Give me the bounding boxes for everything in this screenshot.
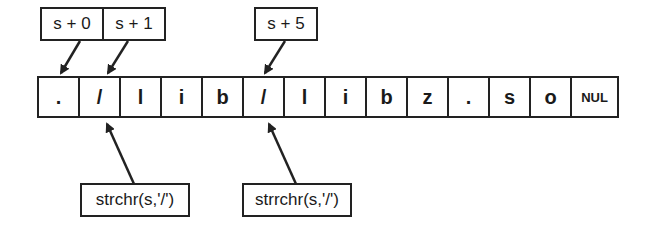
- cell-12: o: [529, 76, 572, 118]
- label-strchr: strchr(s,'/'): [80, 183, 190, 217]
- arrow-s5: [265, 41, 285, 73]
- label-s-plus-1: s + 1: [102, 7, 166, 41]
- cell-0: .: [37, 76, 80, 118]
- cell-10: .: [447, 76, 490, 118]
- cell-11: s: [488, 76, 531, 118]
- arrow-strchr: [107, 124, 134, 184]
- arrow-s0: [61, 41, 80, 73]
- cell-3: i: [160, 76, 203, 118]
- cell-9: z: [406, 76, 449, 118]
- label-s-plus-0: s + 0: [40, 7, 104, 41]
- cell-13-nul: NUL: [570, 76, 619, 118]
- cell-7: i: [324, 76, 367, 118]
- cell-1: /: [78, 76, 121, 118]
- cell-8: b: [365, 76, 408, 118]
- label-s-plus-5: s + 5: [254, 7, 318, 41]
- label-strrchr: strrchr(s,'/'): [242, 183, 352, 217]
- cell-5: /: [242, 76, 285, 118]
- arrow-strrchr: [269, 124, 296, 184]
- arrow-s1: [108, 41, 128, 73]
- cell-6: l: [283, 76, 326, 118]
- cell-2: l: [119, 76, 162, 118]
- cell-4: b: [201, 76, 244, 118]
